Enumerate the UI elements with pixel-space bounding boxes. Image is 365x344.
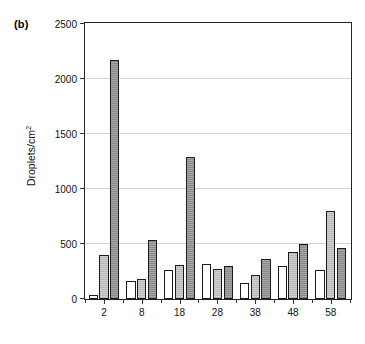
bar-series-1-18 bbox=[164, 270, 173, 299]
x-axis-tick bbox=[142, 299, 143, 304]
bar-series-3-2 bbox=[110, 60, 119, 299]
x-axis-minor-tick bbox=[123, 299, 124, 303]
x-axis-minor-tick bbox=[85, 299, 86, 303]
x-axis-tick-label: 18 bbox=[174, 307, 185, 318]
x-axis-minor-tick bbox=[312, 299, 313, 303]
bar-series-3-38 bbox=[261, 259, 270, 299]
y-axis-tick-label: 1000 bbox=[55, 184, 77, 195]
x-axis-tick-label: 38 bbox=[250, 307, 261, 318]
bar-series-1-38 bbox=[240, 283, 249, 299]
x-axis-minor-tick bbox=[236, 299, 237, 303]
x-axis-tick bbox=[293, 299, 294, 304]
y-axis-title-exponent: 2 bbox=[24, 126, 33, 130]
bar-series-2-18 bbox=[175, 265, 184, 299]
y-axis-title-text: Droplets/cm bbox=[25, 130, 37, 186]
plot-area: 05001000150020002500 281828384858 bbox=[84, 22, 352, 300]
figure-panel-b: (b) Droplets/cm2 05001000150020002500 28… bbox=[0, 0, 365, 344]
x-axis-minor-tick bbox=[198, 299, 199, 303]
x-axis-tick bbox=[217, 299, 218, 304]
x-axis-tick-label: 8 bbox=[139, 307, 145, 318]
bar-series-2-58 bbox=[326, 211, 335, 299]
y-axis-tick-label: 1500 bbox=[55, 129, 77, 140]
bar-series-1-48 bbox=[278, 266, 287, 299]
bar-series-1-58 bbox=[315, 270, 324, 299]
x-axis-tick bbox=[104, 299, 105, 304]
x-axis-minor-tick bbox=[274, 299, 275, 303]
y-axis-tick-label: 0 bbox=[71, 294, 77, 305]
bar-series-2-8 bbox=[137, 279, 146, 299]
y-axis-tick-label: 2500 bbox=[55, 19, 77, 30]
x-axis-minor-tick bbox=[350, 299, 351, 303]
bar-series-3-28 bbox=[224, 266, 233, 299]
bar-series-1-8 bbox=[126, 281, 135, 299]
bar-series-2-28 bbox=[213, 269, 222, 299]
x-axis-tick-label: 58 bbox=[325, 307, 336, 318]
y-axis-tick-label: 2000 bbox=[55, 74, 77, 85]
bar-series-3-18 bbox=[186, 157, 195, 299]
x-axis-tick-label: 28 bbox=[212, 307, 223, 318]
x-axis-tick-label: 2 bbox=[101, 307, 107, 318]
bar-series-2-2 bbox=[99, 255, 108, 299]
x-axis-minor-tick bbox=[161, 299, 162, 303]
bar-series-1-28 bbox=[202, 264, 211, 299]
y-axis-title: Droplets/cm2 bbox=[25, 96, 37, 216]
bar-series-layer bbox=[85, 23, 351, 299]
y-axis-tick-label: 500 bbox=[60, 239, 77, 250]
x-axis-tick bbox=[331, 299, 332, 304]
bar-series-3-58 bbox=[337, 248, 346, 299]
bar-series-1-2 bbox=[89, 295, 98, 299]
x-axis-tick bbox=[255, 299, 256, 304]
bar-series-2-48 bbox=[288, 252, 297, 299]
y-axis-title-wrap: Droplets/cm2 bbox=[13, 0, 35, 344]
bar-series-3-8 bbox=[148, 240, 157, 299]
x-axis-tick bbox=[180, 299, 181, 304]
bar-series-3-48 bbox=[299, 244, 308, 299]
x-axis-tick-label: 48 bbox=[287, 307, 298, 318]
bar-series-2-38 bbox=[251, 275, 260, 299]
